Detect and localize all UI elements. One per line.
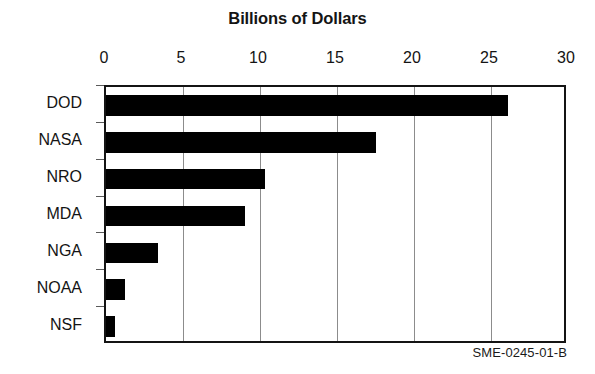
bar-row [106, 169, 564, 190]
y-axis-category-label: NGA [0, 242, 82, 260]
bar-row [106, 243, 564, 264]
y-axis-category-label: NSF [0, 316, 82, 334]
bar-nga [106, 243, 158, 264]
y-axis-category-label: NOAA [0, 279, 82, 297]
y-axis-tick-mark [96, 85, 104, 86]
bar-chart-figure: Billions of Dollars 051015202530 DODNASA… [0, 0, 595, 374]
x-axis-tick-label: 25 [459, 49, 519, 67]
y-axis-category-label: NASA [0, 131, 82, 149]
bar-dod [106, 95, 508, 116]
y-axis-tick-mark [96, 159, 104, 160]
x-axis-tick-label-group: 051015202530 [0, 49, 595, 73]
y-axis-tick-mark [96, 232, 104, 233]
y-axis-tick-mark [96, 269, 104, 270]
bar-nsf [106, 316, 115, 337]
bar-noaa [106, 279, 125, 300]
y-axis-tick-mark [96, 306, 104, 307]
x-axis-tick-label: 0 [74, 49, 134, 67]
bar-row [106, 95, 564, 116]
bar-row [106, 206, 564, 227]
x-axis-tick-label: 15 [305, 49, 365, 67]
y-axis-category-label: MDA [0, 205, 82, 223]
y-axis-tick-mark-group [96, 85, 104, 343]
bar-group [106, 87, 564, 341]
plot-area [104, 85, 566, 343]
x-axis-tick-label: 20 [382, 49, 442, 67]
bar-row [106, 316, 564, 337]
y-axis-tick-mark [96, 122, 104, 123]
bar-nasa [106, 132, 376, 153]
bar-row [106, 132, 564, 153]
x-axis-tick-label: 30 [536, 49, 595, 67]
x-axis-tick-label: 5 [151, 49, 211, 67]
chart-title: Billions of Dollars [0, 9, 595, 28]
bar-row [106, 279, 564, 300]
y-axis-category-label: NRO [0, 168, 82, 186]
chart-caption: SME-0245-01-B [472, 345, 567, 360]
bar-mda [106, 206, 245, 227]
y-axis-tick-mark [96, 196, 104, 197]
y-axis-category-label-group: DODNASANROMDANGANOAANSF [0, 85, 96, 343]
bar-nro [106, 169, 265, 190]
x-axis-tick-label: 10 [228, 49, 288, 67]
y-axis-category-label: DOD [0, 94, 82, 112]
